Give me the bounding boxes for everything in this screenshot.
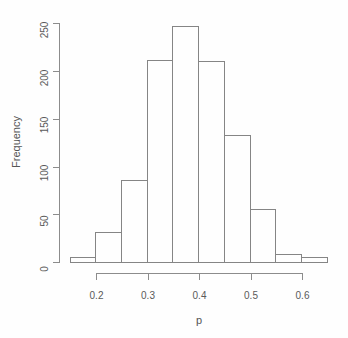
y-tick-label-text: 250 [40, 21, 50, 38]
y-axis-title-text: Frequency [11, 116, 22, 168]
y-axis-line [59, 23, 60, 263]
y-tick-label-text: 150 [40, 117, 50, 134]
histogram-bar [198, 61, 225, 263]
x-tick [148, 274, 149, 280]
histogram-figure: Frequency p 0501001502002500.20.30.40.50… [0, 0, 348, 338]
x-tick-label-text: 0.5 [244, 291, 258, 301]
x-tick-label-text: 0.2 [90, 291, 104, 301]
histogram-bar [250, 209, 277, 263]
x-tick-label-text: 0.6 [296, 291, 310, 301]
y-tick [53, 71, 59, 72]
histogram-bar [121, 180, 148, 263]
y-tick [53, 262, 59, 263]
x-tick [302, 274, 303, 280]
histogram-bar [275, 254, 302, 263]
x-tick [96, 274, 97, 280]
y-tick [53, 167, 59, 168]
histogram-bar [224, 135, 251, 263]
x-tick [199, 274, 200, 280]
histogram-bar [70, 257, 96, 263]
y-tick [53, 119, 59, 120]
histogram-bar [95, 232, 122, 263]
histogram-bar [172, 26, 199, 263]
x-tick [251, 274, 252, 280]
y-tick-label-text: 50 [40, 215, 50, 226]
histogram-bar [147, 60, 174, 263]
y-tick [53, 23, 59, 24]
y-tick-label-text: 0 [40, 266, 50, 272]
y-tick-label-text: 200 [40, 69, 50, 86]
y-tick-label-text: 100 [40, 165, 50, 182]
x-tick-label-text: 0.3 [141, 291, 155, 301]
plot-area: Frequency p 0501001502002500.20.30.40.50… [0, 0, 348, 338]
x-tick-label-text: 0.4 [193, 291, 207, 301]
y-tick [53, 214, 59, 215]
x-axis-title-text: p [196, 315, 202, 326]
histogram-bar [301, 257, 328, 263]
